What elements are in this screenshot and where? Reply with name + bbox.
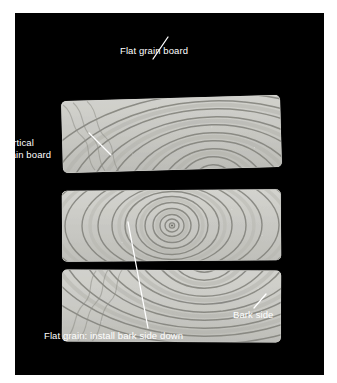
label-flat-grain-install-bark-side-down: Flat grain: install bark side down: [44, 330, 183, 342]
wood-grain-figure: Flat grain board Verticalgrain board Fla…: [0, 0, 337, 383]
label-flat-grain-board: Flat grain board: [120, 45, 188, 57]
label-vertical-line2: grain board: [2, 149, 51, 160]
board-middle-vertical-grain: [62, 189, 281, 262]
board-top-flat-grain: [61, 95, 282, 173]
board-middle-grain-svg: [62, 189, 281, 262]
label-vertical-line1: Vertical: [2, 137, 34, 148]
label-bark-side: Bark side: [233, 309, 274, 321]
photo-panel: [15, 13, 324, 375]
label-vertical-grain-board: Verticalgrain board: [2, 137, 51, 160]
board-top-grain-svg: [61, 95, 282, 173]
